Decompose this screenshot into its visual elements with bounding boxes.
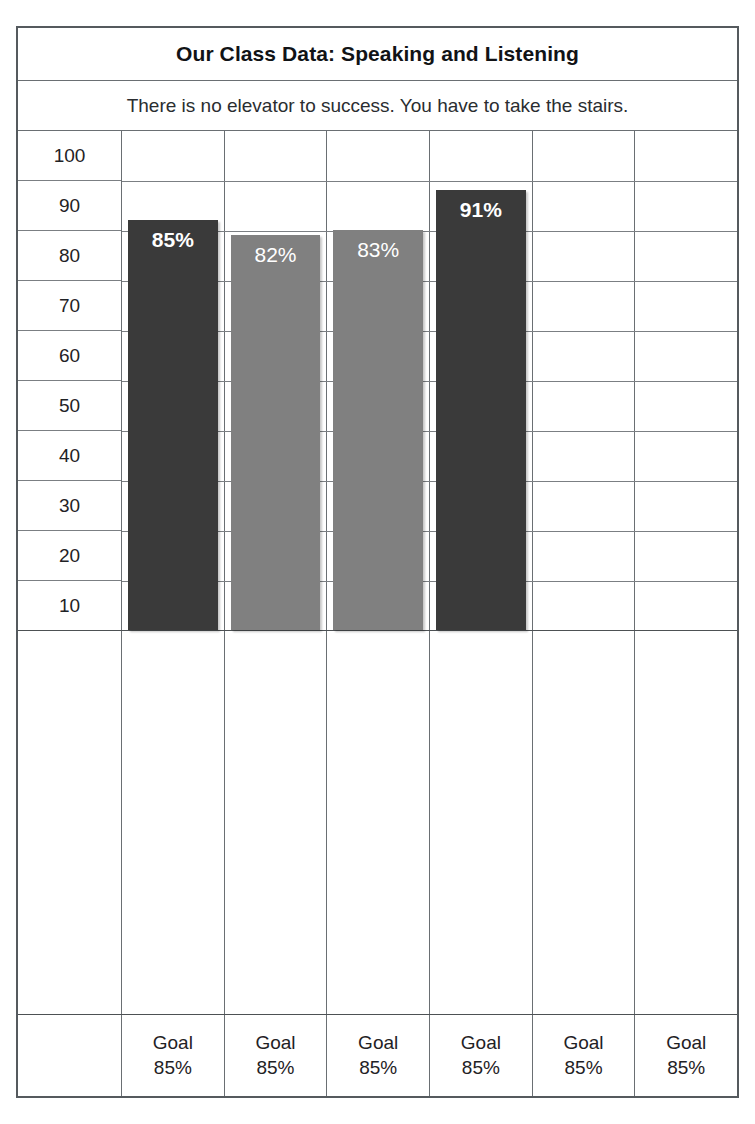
bar-column-2[interactable]: 82% (225, 131, 328, 630)
goal-cell-3: Goal85% (327, 1015, 430, 1096)
bars-region: 85%82%83%91% (122, 131, 737, 630)
goal-row-header-cell (18, 1015, 122, 1096)
goal-label-5: Goal (563, 1031, 603, 1055)
goal-value-4: 85% (462, 1056, 500, 1080)
chart-subtitle: There is no elevator to success. You hav… (127, 95, 629, 117)
bar-column-1[interactable]: 85% (122, 131, 225, 630)
bar-value-label-3: 83% (357, 230, 399, 262)
goal-label-1: Goal (153, 1031, 193, 1055)
y-axis-tick-70: 70 (18, 281, 121, 331)
goal-row: Goal85%Goal85%Goal85%Goal85%Goal85%Goal8… (18, 1015, 737, 1096)
y-axis-tick-30: 30 (18, 481, 121, 531)
category-cell-2: Follow class discussion rules (225, 631, 328, 1014)
goal-cell-1: Goal85% (122, 1015, 225, 1096)
y-axis-tick-90: 90 (18, 181, 121, 231)
bar-value-label-2: 82% (254, 235, 296, 267)
bar-value-label-1: 85% (152, 220, 194, 252)
bar-2[interactable]: 82% (231, 235, 320, 630)
category-cell-1: Prepare for discussions by reading requi… (122, 631, 225, 1014)
goal-cell-4: Goal85% (430, 1015, 533, 1096)
category-cell-3: Explain my own ideas and understanding a… (327, 631, 430, 1014)
y-axis-tick-50: 50 (18, 381, 121, 431)
y-axis-tick-10: 10 (18, 581, 121, 631)
goal-label-2: Goal (255, 1031, 295, 1055)
bar-4[interactable]: 91% (436, 190, 525, 630)
y-axis-tick-60: 60 (18, 331, 121, 381)
goal-cell-6: Goal85% (635, 1015, 737, 1096)
goal-value-3: 85% (359, 1056, 397, 1080)
y-axis: 100908070605040302010 (18, 131, 122, 630)
goal-cell-2: Goal85% (225, 1015, 328, 1096)
category-label-row: I can . . . Prepare for discussions by r… (18, 631, 737, 1015)
goal-label-4: Goal (461, 1031, 501, 1055)
y-axis-tick-20: 20 (18, 531, 121, 581)
category-cell-5: Tell the supporting details of a text re… (533, 631, 636, 1014)
page-title: Our Class Data: Speaking and Listening (176, 42, 579, 66)
y-axis-tick-100: 100 (18, 131, 121, 181)
goal-value-2: 85% (256, 1056, 294, 1080)
goal-label-3: Goal (358, 1031, 398, 1055)
chart-subtitle-row: There is no elevator to success. You hav… (18, 81, 737, 131)
bar-3[interactable]: 83% (333, 230, 422, 630)
category-cell-4: Tell the main idea of a text read aloud (430, 631, 533, 1014)
bar-column-3[interactable]: 83% (327, 131, 430, 630)
bar-column-5[interactable] (533, 131, 636, 630)
bar-value-label-4: 91% (460, 190, 502, 222)
goal-value-1: 85% (154, 1056, 192, 1080)
row-header-cell: I can . . . (18, 631, 122, 1014)
y-axis-tick-40: 40 (18, 431, 121, 481)
goal-value-5: 85% (565, 1056, 603, 1080)
goal-label-6: Goal (666, 1031, 706, 1055)
chart-title-row: Our Class Data: Speaking and Listening (18, 28, 737, 81)
plot-area: 100908070605040302010 85%82%83%91% (18, 131, 737, 631)
class-data-chart-sheet: Our Class Data: Speaking and Listening T… (16, 26, 739, 1098)
bar-column-4[interactable]: 91% (430, 131, 533, 630)
y-axis-tick-80: 80 (18, 231, 121, 281)
goal-value-6: 85% (667, 1056, 705, 1080)
goal-cell-5: Goal85% (533, 1015, 636, 1096)
bar-1[interactable]: 85% (128, 220, 217, 630)
bar-column-6[interactable] (635, 131, 737, 630)
category-cell-6: Ask and answer questions about informati… (635, 631, 737, 1014)
